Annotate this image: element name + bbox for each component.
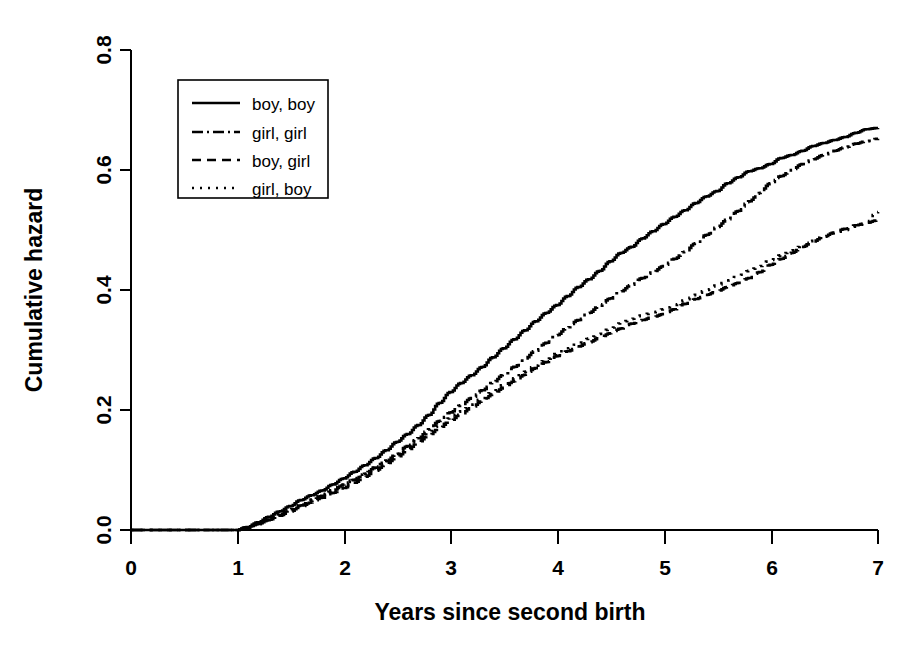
chart-figure: 0.8 0.6 0.4 0.2 0.0 0 1 2 3 4 5 6 7 xyxy=(0,0,902,657)
legend-label-girl-boy: girl, boy xyxy=(252,180,312,199)
x-axis-title: Years since second birth xyxy=(374,599,645,625)
y-tick-label: 0.0 xyxy=(92,515,115,544)
x-tick-label: 3 xyxy=(445,556,457,579)
x-tick-label: 4 xyxy=(552,556,564,579)
chart-legend: boy, boy girl, girl boy, girl girl, boy xyxy=(178,80,328,199)
x-tick-label: 1 xyxy=(232,556,244,579)
y-tick-label: 0.2 xyxy=(92,395,115,424)
x-tick-label: 6 xyxy=(766,556,778,579)
x-tick-label: 7 xyxy=(872,556,884,579)
y-tick-label: 0.8 xyxy=(92,35,115,65)
y-axis-title: Cumulative hazard xyxy=(21,188,47,393)
y-tick-label: 0.4 xyxy=(92,275,115,305)
x-tick-label: 5 xyxy=(659,556,671,579)
legend-label-girl-girl: girl, girl xyxy=(252,124,307,143)
legend-label-boy-boy: boy, boy xyxy=(252,95,316,114)
y-tick-label: 0.6 xyxy=(92,155,115,184)
cumulative-hazard-chart: 0.8 0.6 0.4 0.2 0.0 0 1 2 3 4 5 6 7 xyxy=(0,0,902,657)
x-tick-label: 2 xyxy=(339,556,351,579)
legend-label-boy-girl: boy, girl xyxy=(252,152,310,171)
x-tick-label: 0 xyxy=(125,556,137,579)
